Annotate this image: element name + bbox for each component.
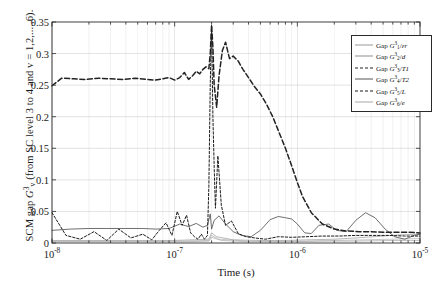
chart-legend: Gap G31/εr Gap G32/d Gap G33/T1 Gap G34/… (351, 35, 432, 112)
legend-label-epsilon-r: Gap G31/εr (376, 40, 407, 50)
legend-label-d: Gap G32/d (376, 51, 405, 61)
chart-figure: SCM gap G3v (from SC level 3 to 4 and v … (0, 0, 436, 289)
legend-key-e (354, 98, 374, 107)
legend-key-t2 (354, 75, 374, 84)
legend-key-epsilon-r (354, 40, 374, 49)
legend-item-l[interactable]: Gap G35/L (354, 85, 429, 97)
legend-key-d (354, 52, 374, 61)
legend-item-t2[interactable]: Gap G34/T2 (354, 74, 429, 86)
legend-key-t1 (354, 63, 374, 72)
legend-label-e: Gap G36/e (376, 97, 405, 107)
series-gap-g3-1-epsilon-r (52, 233, 420, 241)
legend-item-d[interactable]: Gap G32/d (354, 51, 429, 63)
legend-label-l: Gap G35/L (376, 86, 406, 96)
legend-item-e[interactable]: Gap G36/e (354, 97, 429, 109)
legend-item-t1[interactable]: Gap G33/T1 (354, 62, 429, 74)
legend-item-epsilon-r[interactable]: Gap G31/εr (354, 39, 429, 51)
legend-label-t1: Gap G33/T1 (376, 63, 409, 73)
legend-label-t2: Gap G34/T2 (376, 74, 409, 84)
legend-key-l (354, 86, 374, 95)
